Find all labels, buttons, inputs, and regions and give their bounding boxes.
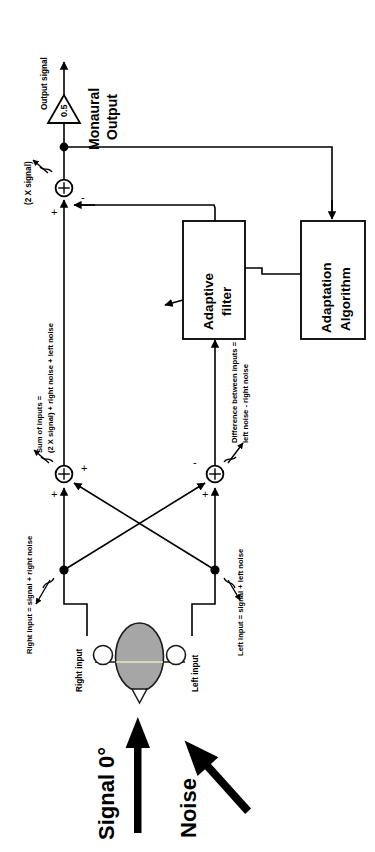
- signal-label: Signal 0°: [94, 747, 119, 840]
- noise-label: Noise: [176, 778, 201, 838]
- adaptation-algorithm-block[interactable]: Adaptation Algorithm: [301, 221, 365, 339]
- sum-summer-plus-sign-a: +: [51, 488, 57, 500]
- gain-value-label: 0.5: [59, 104, 69, 117]
- listener-head: [94, 623, 186, 703]
- callout-right-input: [36, 578, 54, 604]
- left-ear-microphone: [167, 646, 186, 665]
- left-input-equation-label: Left input = signal + left noise: [236, 549, 245, 656]
- adaptive-filter-label-line2: filter: [219, 286, 234, 316]
- two-x-signal-label: (2 X signal): [24, 161, 33, 205]
- filter-output-wire: [78, 205, 215, 221]
- filter-algorithm-link: [245, 268, 301, 274]
- left-to-sum-summer-wire: [74, 483, 215, 570]
- filter-weight-arrow: [165, 300, 183, 305]
- output-signal-label: Output signal: [40, 57, 49, 110]
- head-ellipse: [116, 623, 164, 691]
- difference-label-line1: Difference between inputs =: [230, 341, 239, 443]
- adaptation-algorithm-label-line2: Algorithm: [338, 267, 353, 331]
- difference-summer-plus-sign: +: [202, 488, 208, 500]
- right-input-equation-label: Right input = signal + right noise: [25, 536, 34, 654]
- nose-triangle: [132, 689, 147, 703]
- left-input-label: Left input: [191, 654, 200, 692]
- difference-summer-minus-sign: -: [193, 456, 197, 468]
- output-summer-plus-sign: +: [51, 206, 57, 218]
- adaptation-algorithm-label-line1: Adaptation: [319, 263, 334, 334]
- sum-of-inputs-label-line1: Sum of inputs =: [35, 395, 44, 453]
- right-to-difference-summer-wire: [64, 483, 205, 570]
- difference-summer: [207, 466, 224, 483]
- monaural-output-label-line2: Output: [104, 94, 120, 140]
- output-summer-minus-sign: -: [81, 191, 85, 203]
- monaural-output-label-line1: Monaural: [86, 88, 102, 150]
- callout-two-x-signal: [33, 160, 52, 173]
- right-ear-wire: [64, 570, 87, 636]
- difference-label-line2: left noise - right noise: [241, 364, 250, 443]
- figure-canvas: + - + + + - Adaptive filter Ada: [0, 0, 375, 852]
- output-tap-to-algorithm-wire: [64, 147, 332, 212]
- left-ear-wire: [192, 570, 215, 636]
- signal-arrow: [126, 717, 150, 833]
- block-diagram: + - + + + - Adaptive filter Ada: [0, 0, 375, 852]
- output-summer: [56, 180, 73, 197]
- sum-summer-plus-sign-b: +: [81, 462, 87, 474]
- right-input-label: Right input: [75, 649, 84, 692]
- adaptive-filter-block[interactable]: Adaptive filter: [183, 221, 245, 339]
- callout-difference: [224, 443, 243, 463]
- sum-summer: [56, 466, 73, 483]
- sum-of-inputs-label-line2: (2 X signal) + right noise + left noise: [46, 323, 55, 453]
- adaptive-filter-label-line1: Adaptive: [201, 272, 216, 330]
- right-ear-microphone: [94, 646, 113, 665]
